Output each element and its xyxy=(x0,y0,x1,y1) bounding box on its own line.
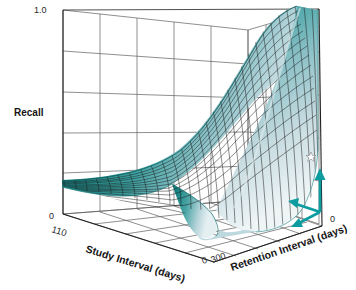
study-interval-tick: 110 xyxy=(50,223,68,238)
recall-axis-label: Recall xyxy=(14,107,44,118)
recall-surface xyxy=(62,5,318,240)
retention-interval-tick-far: 0 xyxy=(330,214,335,224)
recall-tick-top: 1.0 xyxy=(34,5,47,15)
retention-interval-tick-high: 300 xyxy=(209,251,226,265)
recall-tick-bottom: 0 xyxy=(49,211,54,221)
top-back-edge xyxy=(63,9,319,10)
recall-axis-arrow xyxy=(315,168,326,212)
plot-canvas: 1.0 0 110 0 300 0 Recall Study Interval … xyxy=(0,0,356,290)
surface-plot-figure: 1.0 0 110 0 300 0 Recall Study Interval … xyxy=(0,0,356,290)
